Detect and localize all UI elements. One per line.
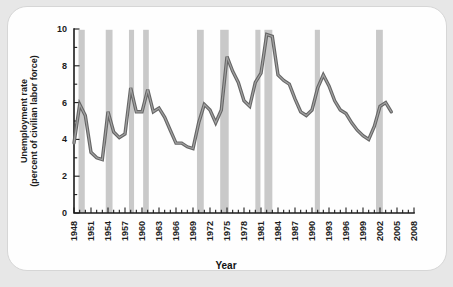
x-tick-label: 1969	[188, 221, 198, 241]
unemployment-line-inner	[74, 35, 391, 160]
x-tick-label: 1957	[120, 221, 130, 241]
recession-band	[79, 30, 85, 213]
x-tick-label: 1963	[154, 221, 164, 241]
x-tick-label: 1978	[239, 221, 249, 241]
x-tick-label: 1993	[324, 221, 334, 241]
recession-bands	[79, 30, 383, 213]
x-tick-label: 1987	[290, 221, 300, 241]
recession-band	[255, 30, 260, 213]
x-tick-label: 1999	[358, 221, 368, 241]
x-tick-label: 1951	[86, 221, 96, 241]
x-tick-label: 2002	[375, 221, 385, 241]
series-unemployment-rate	[74, 35, 391, 160]
x-tick-label: 2008	[409, 221, 419, 241]
x-tick-label: 1981	[256, 221, 266, 241]
x-tick-label: 1984	[273, 221, 283, 241]
x-tick-label: 1996	[341, 221, 351, 241]
y-tick-label: 10	[57, 24, 67, 34]
y-tick-label: 4	[62, 134, 67, 144]
recession-band	[264, 30, 272, 213]
y-axis-title-line2: (percent of civilian labor force)	[29, 55, 39, 187]
unemployment-line-chart: 0246810194819511954195719601963196619691…	[0, 0, 453, 287]
recession-band	[143, 30, 149, 213]
y-tick-label: 6	[62, 98, 67, 108]
page-background: 0246810194819511954195719601963196619691…	[0, 0, 453, 287]
unemployment-line-outer	[74, 35, 391, 160]
x-tick-label: 1954	[103, 221, 113, 241]
x-tick-label: 1972	[205, 221, 215, 241]
x-tick-label: 2005	[392, 221, 402, 241]
x-tick-label: 1948	[69, 221, 79, 241]
y-axis-title-line1: Unemployment rate	[19, 55, 29, 187]
x-tick-label: 1990	[307, 221, 317, 241]
recession-band	[129, 30, 134, 213]
recession-band	[315, 30, 320, 213]
y-tick-label: 2	[62, 171, 67, 181]
x-tick-label: 1966	[171, 221, 181, 241]
x-tick-label: 1975	[222, 221, 232, 241]
y-axis-title: Unemployment rate (percent of civilian l…	[19, 55, 39, 187]
x-axis-title: Year	[215, 260, 236, 271]
y-tick-label: 8	[62, 61, 67, 71]
y-tick-label: 0	[62, 208, 67, 218]
x-tick-label: 1960	[137, 221, 147, 241]
